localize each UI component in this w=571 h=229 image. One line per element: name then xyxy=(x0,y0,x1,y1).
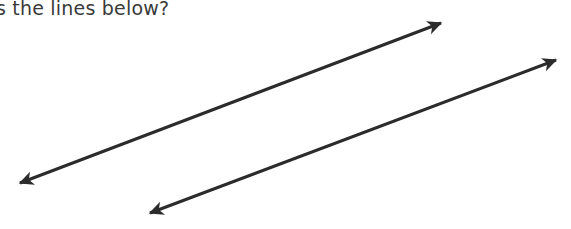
parallel-lines-figure xyxy=(0,0,571,229)
line-2-double-arrow xyxy=(150,60,556,213)
line-1-double-arrow xyxy=(20,23,441,183)
worksheet-canvas: s the lines below? xyxy=(0,0,571,229)
